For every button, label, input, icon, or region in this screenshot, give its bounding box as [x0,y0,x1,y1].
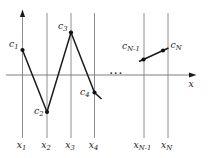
figure-background [0,0,208,158]
data-point-c4 [92,90,96,94]
interpolation-diagram: xc1c2c3c4cN-1cNx1x2x3x4xN-1xN... [0,0,208,158]
x-axis-label: x [189,78,195,89]
ellipsis-text: ... [110,65,124,76]
data-point-c3 [69,30,73,34]
data-point-c1 [20,48,24,52]
figure-page: xc1c2c3c4cN-1cNx1x2x3x4xN-1xN... [0,0,208,158]
data-point-c2 [45,110,49,114]
data-point-cN [161,48,165,52]
data-point-cN-1 [141,57,145,61]
